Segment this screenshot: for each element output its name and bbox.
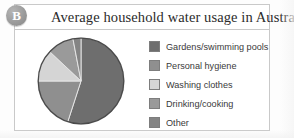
legend-item: Gardens/swimming pools [149, 37, 267, 55]
legend-item: Drinking/cooking [149, 94, 267, 112]
legend-swatch-icon [149, 60, 160, 71]
legend-swatch-icon [149, 79, 160, 90]
chart-legend: Gardens/swimming poolsPersonal hygieneWa… [149, 37, 267, 132]
figure-container: Average household water usage in Austral… [0, 0, 294, 138]
legend-swatch-icon [149, 117, 160, 128]
legend-item-label: Other [166, 117, 189, 128]
legend-item: Other [149, 113, 267, 131]
page-title: Average household water usage in Austral… [51, 8, 265, 27]
legend-swatch-icon [149, 41, 160, 52]
pie-chart [35, 35, 127, 127]
legend-item: Washing clothes [149, 75, 267, 93]
question-badge: B [6, 5, 27, 26]
legend-swatch-icon [149, 98, 160, 109]
pie-chart-svg [35, 35, 127, 127]
legend-item-label: Gardens/swimming pools [166, 41, 268, 52]
figure-title-bar: Average household water usage in Austral… [14, 4, 270, 29]
legend-item-label: Washing clothes [166, 79, 233, 90]
legend-item-label: Personal hygiene [166, 60, 236, 71]
legend-item-label: Drinking/cooking [166, 98, 233, 109]
question-badge-letter: B [6, 5, 27, 26]
legend-item: Personal hygiene [149, 56, 267, 74]
chart-panel: Gardens/swimming poolsPersonal hygieneWa… [14, 29, 270, 131]
